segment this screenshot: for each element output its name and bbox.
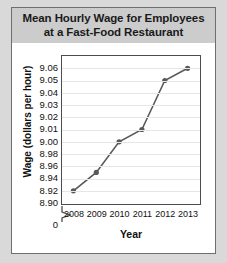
y-tick-label: 8.92 — [40, 184, 59, 195]
data-point-marker — [94, 170, 99, 175]
gridline — [62, 81, 200, 82]
x-tick-label: 2011 — [133, 209, 152, 219]
chart-title-line-2: at a Fast-Food Restaurant — [44, 26, 183, 40]
y-tick-label: 8.90 — [40, 196, 59, 207]
gridline — [62, 117, 200, 118]
y-tick-label: 9.06 — [40, 62, 59, 73]
chart-title-line-1: Mean Hourly Wage for Employees — [23, 12, 205, 26]
y-tick-label: 8.98 — [40, 147, 59, 158]
y-tick-label: 9.01 — [40, 123, 59, 134]
gridline — [62, 166, 200, 167]
y-tick-label: 9.00 — [40, 135, 59, 146]
chart-card: Mean Hourly Wage for Employees at a Fast… — [11, 7, 216, 254]
y-tick-label: 9.04 — [40, 86, 59, 97]
gridline — [62, 68, 200, 69]
gridline — [62, 142, 200, 143]
y-tick-label: 8.96 — [40, 160, 59, 171]
x-tick-label: 2009 — [87, 209, 107, 219]
y-axis-tick-labels: 9.069.059.049.039.029.019.008.988.968.94… — [12, 55, 58, 205]
plot-area — [61, 55, 201, 205]
y-tick-label: 9.03 — [40, 98, 59, 109]
x-tick-label: 2010 — [110, 209, 130, 219]
x-tick-label: 2012 — [155, 209, 175, 219]
gridline — [62, 154, 200, 155]
y-tick-label: 8.94 — [40, 172, 59, 183]
gridline — [62, 179, 200, 180]
x-tick-label: 2008 — [64, 209, 84, 219]
y-tick-label: 9.05 — [40, 74, 59, 85]
gridline — [62, 93, 200, 94]
gridline — [62, 105, 200, 106]
x-tick-label: 2013 — [178, 209, 198, 219]
y-tick-label: 9.02 — [40, 111, 59, 122]
chart-title-band: Mean Hourly Wage for Employees at a Fast… — [12, 8, 215, 43]
y-axis-zero-label: 0 — [12, 219, 58, 230]
x-axis-tick-labels: 200820092010201120122013 — [61, 209, 201, 225]
gridline — [62, 130, 200, 131]
gridline — [62, 191, 200, 192]
line-chart: Wage (dollars per hour) 9.069.059.049.03… — [12, 43, 217, 255]
x-axis-title: Year — [61, 228, 201, 240]
